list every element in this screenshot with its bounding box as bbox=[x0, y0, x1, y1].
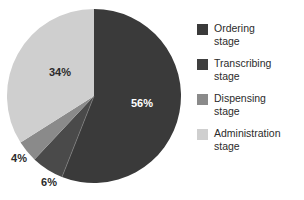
pie-data-label: 34% bbox=[49, 66, 71, 78]
legend-item[interactable]: Ordering stage bbox=[197, 22, 304, 47]
pie-data-label: 56% bbox=[131, 97, 153, 109]
legend-item-label: Ordering stage bbox=[214, 22, 255, 47]
pie-chart-figure: 56%6%4%34% Ordering stageTranscribing st… bbox=[0, 0, 304, 200]
legend-swatch-dispensing bbox=[197, 94, 208, 105]
chart-legend: Ordering stageTranscribing stageDispensi… bbox=[197, 22, 304, 182]
legend-swatch-administration bbox=[197, 129, 208, 140]
legend-item-label: Administration stage bbox=[214, 127, 281, 152]
legend-swatch-transcribing bbox=[197, 59, 208, 70]
pie-chart-svg: 56%6%4%34% bbox=[0, 0, 190, 200]
pie-chart-plot-area: 56%6%4%34% bbox=[0, 0, 190, 200]
legend-item[interactable]: Dispensing stage bbox=[197, 92, 304, 117]
legend-item-label: Transcribing stage bbox=[214, 57, 271, 82]
legend-item[interactable]: Administration stage bbox=[197, 127, 304, 152]
pie-data-label: 6% bbox=[41, 176, 57, 188]
pie-data-label: 4% bbox=[11, 152, 27, 164]
legend-swatch-ordering bbox=[197, 24, 208, 35]
legend-item-label: Dispensing stage bbox=[214, 92, 266, 117]
legend-item[interactable]: Transcribing stage bbox=[197, 57, 304, 82]
